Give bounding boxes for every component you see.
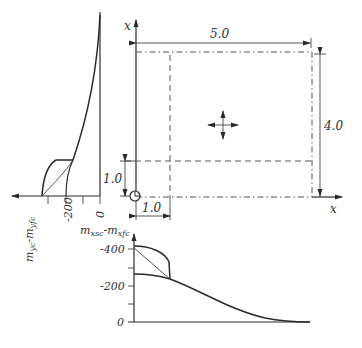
- x-axis-vertical-label: x: [124, 19, 131, 33]
- dim-offset-vertical-label: 1.0: [103, 172, 122, 186]
- bottom-tick-label-200: -200: [100, 280, 125, 293]
- bottom-plot-axis-label: mxsc-mxfc: [80, 224, 130, 238]
- left-tick-label-200: -200: [62, 197, 75, 222]
- bottom-moment-plot: -400 -200 0 mxsc-mxfc: [80, 224, 310, 329]
- four-way-arrow-icon: [208, 111, 238, 139]
- bottom-curve-main: [134, 274, 310, 322]
- left-tick-label-0: 0: [94, 211, 107, 218]
- dim-width-label: 5.0: [210, 27, 229, 41]
- dim-height-label: 4.0: [323, 119, 343, 133]
- diagram-canvas: x x 5.0 4.0 1.0 1.0: [0, 0, 362, 348]
- plan-view: x x 5.0 4.0 1.0 1.0: [103, 19, 343, 220]
- left-curve-main: [73, 15, 100, 160]
- origin-circle-icon: [130, 191, 140, 201]
- bottom-tick-label-0: 0: [117, 316, 124, 329]
- left-moment-plot: -200 0 myc-myfc: [12, 12, 107, 262]
- left-plot-axis-label: myc-myfc: [23, 216, 37, 262]
- x-axis-horizontal-label: x: [330, 202, 337, 216]
- left-curve-diagonal: [42, 160, 73, 196]
- bottom-tick-label-400: -400: [100, 243, 125, 256]
- dim-offset-horizontal-label: 1.0: [142, 201, 161, 215]
